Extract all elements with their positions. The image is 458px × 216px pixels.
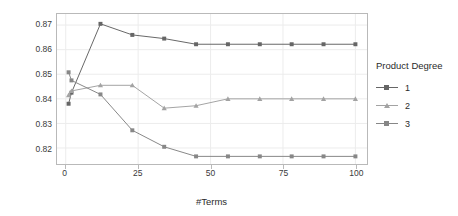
x-tick-mark bbox=[211, 165, 212, 169]
data-point bbox=[98, 22, 102, 26]
legend: Product Degree 123 bbox=[376, 60, 456, 134]
x-tick-label: 25 bbox=[118, 168, 158, 178]
data-point bbox=[67, 102, 71, 106]
legend-item-2[interactable]: 2 bbox=[376, 98, 456, 113]
x-tick-label: 0 bbox=[45, 168, 85, 178]
legend-item-label: 1 bbox=[405, 83, 410, 93]
data-point bbox=[258, 154, 262, 158]
data-point bbox=[67, 70, 71, 74]
legend-key-icon bbox=[376, 82, 398, 94]
legend-key-icon bbox=[376, 118, 398, 130]
y-tick-label: 0.84 bbox=[26, 94, 52, 104]
y-tick-label: 0.85 bbox=[26, 69, 52, 79]
chart-figure: Accuracy (Cross-Validation) 0.820.830.84… bbox=[0, 0, 458, 216]
legend-item-label: 3 bbox=[405, 119, 410, 129]
x-tick-mark bbox=[356, 165, 357, 169]
series-3 bbox=[67, 70, 358, 158]
data-point bbox=[162, 37, 166, 41]
legend-marker bbox=[384, 85, 389, 90]
legend-marker bbox=[384, 103, 390, 108]
legend-item-1[interactable]: 1 bbox=[376, 80, 456, 95]
data-point bbox=[162, 145, 166, 149]
legend-key-icon bbox=[376, 100, 398, 112]
data-point bbox=[98, 92, 102, 96]
x-tick-mark bbox=[65, 165, 66, 169]
data-series-layer bbox=[57, 14, 367, 164]
legend-items: 123 bbox=[376, 80, 456, 131]
data-point bbox=[226, 154, 230, 158]
x-tick-label: 50 bbox=[191, 168, 231, 178]
y-tick-label: 0.83 bbox=[26, 119, 52, 129]
legend-marker bbox=[384, 121, 389, 126]
y-tick-label: 0.82 bbox=[26, 144, 52, 154]
x-tick-mark bbox=[283, 165, 284, 169]
legend-title: Product Degree bbox=[376, 60, 456, 71]
data-point bbox=[226, 42, 230, 46]
legend-item-label: 2 bbox=[405, 101, 410, 111]
series-2 bbox=[66, 83, 358, 110]
series-1 bbox=[67, 22, 358, 106]
y-axis-tick-labels: 0.820.830.840.850.860.87 bbox=[22, 13, 52, 165]
x-tick-mark bbox=[138, 165, 139, 169]
data-point bbox=[290, 154, 294, 158]
series-line bbox=[69, 85, 356, 108]
data-point bbox=[69, 78, 73, 82]
plot-area bbox=[56, 13, 368, 165]
data-point bbox=[290, 42, 294, 46]
x-tick-label: 75 bbox=[263, 168, 303, 178]
series-line bbox=[69, 24, 356, 104]
data-point bbox=[130, 128, 134, 132]
data-point bbox=[353, 154, 357, 158]
y-tick-label: 0.86 bbox=[26, 44, 52, 54]
x-axis-label: #Terms bbox=[55, 196, 368, 207]
data-point bbox=[258, 42, 262, 46]
data-point bbox=[130, 33, 134, 37]
x-tick-label: 100 bbox=[336, 168, 376, 178]
data-point bbox=[322, 42, 326, 46]
y-tick-label: 0.87 bbox=[26, 19, 52, 29]
data-point bbox=[353, 42, 357, 46]
data-point bbox=[322, 154, 326, 158]
data-point bbox=[194, 154, 198, 158]
x-axis-tick-labels: 0255075100 bbox=[56, 166, 368, 182]
data-point bbox=[194, 42, 198, 46]
legend-item-3[interactable]: 3 bbox=[376, 116, 456, 131]
